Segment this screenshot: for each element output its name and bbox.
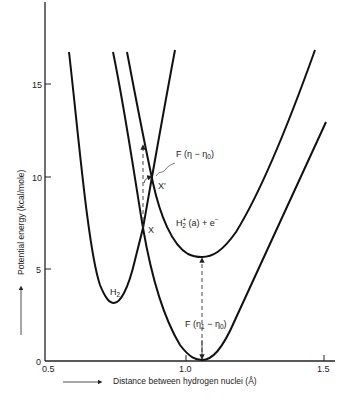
x-tick-0.5: 0.5 xyxy=(42,364,55,374)
ground-well-curve xyxy=(113,52,326,360)
leader-line xyxy=(156,163,175,176)
x-tick-1.5: 1.5 xyxy=(317,364,330,374)
small-arrow-x-prime xyxy=(144,177,150,183)
x-point-label: X xyxy=(148,225,154,235)
ion-label: H+2 (a) + e− xyxy=(176,216,219,229)
f-lower-label: F (η1 − η0) xyxy=(185,319,227,330)
axes xyxy=(45,2,335,361)
x-tick-1.0: 1.0 xyxy=(179,364,192,374)
h2-label: H2 xyxy=(110,287,121,298)
y-tick-0: 0 xyxy=(36,357,41,367)
f-upper-label: F (η − η0) xyxy=(176,149,214,160)
y-tick-5: 5 xyxy=(36,265,41,275)
potential-energy-chart: 15 10 5 0 0.5 1.0 1.5 Potential energy (… xyxy=(0,0,362,401)
y-axis-title: Potential energy (kcal/mole) xyxy=(16,169,26,275)
y-tick-10: 10 xyxy=(32,173,42,183)
h2-curve xyxy=(69,50,175,303)
x-axis-title: Distance between hydrogen nuclei (Å) xyxy=(113,376,257,386)
y-tick-15: 15 xyxy=(32,80,42,90)
svg-text:Potential energy (kcal/mole): Potential energy (kcal/mole) xyxy=(16,169,26,275)
x-prime-point-label: X′ xyxy=(158,181,166,191)
